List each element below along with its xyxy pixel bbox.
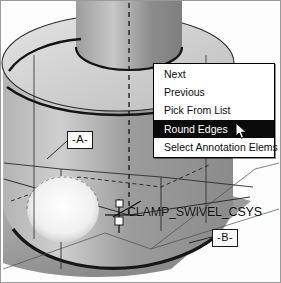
menu-item-pick-from-list[interactable]: Pick From List xyxy=(154,101,274,119)
menu-item-next[interactable]: Next xyxy=(154,65,274,83)
context-menu[interactable]: Next Previous Pick From List Round Edges… xyxy=(153,63,275,158)
csys-name-label[interactable]: CLAMP_SWIVEL_CSYS xyxy=(127,205,262,219)
menu-item-round-edges[interactable]: Round Edges xyxy=(154,120,274,138)
datum-label-b[interactable]: -B- xyxy=(212,229,238,247)
application-window: -A- -B- CLAMP_SWIVEL_CSYS Next Previous … xyxy=(0,0,281,283)
menu-item-select-annotation-elems[interactable]: Select Annotation Elems xyxy=(154,138,274,156)
menu-item-previous[interactable]: Previous xyxy=(154,83,274,101)
datum-label-a[interactable]: -A- xyxy=(67,131,93,149)
